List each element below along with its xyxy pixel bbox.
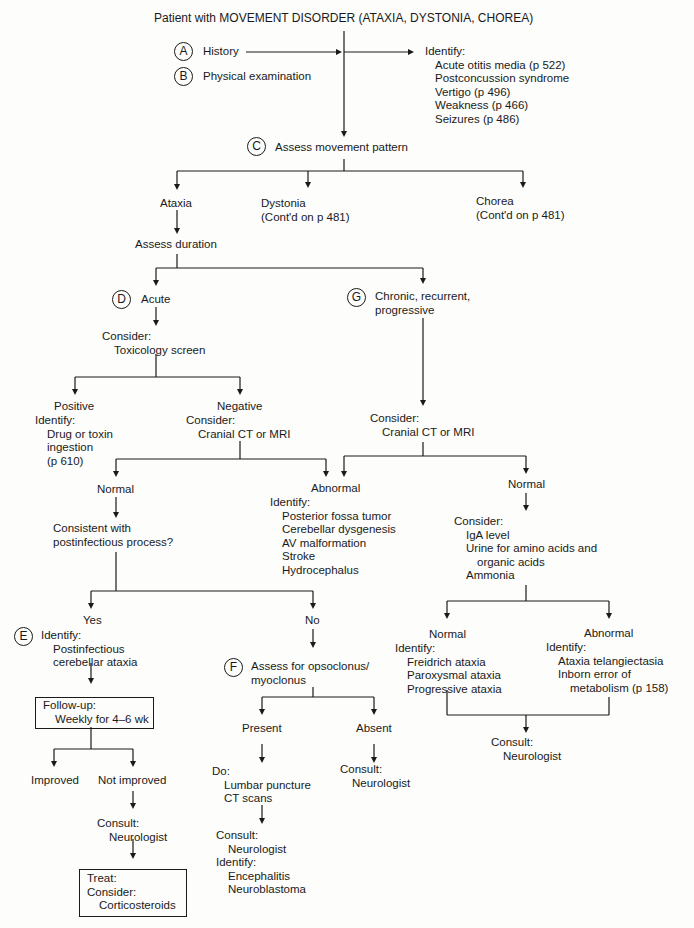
toxicology-screen: Toxicology screen: [102, 344, 205, 358]
identify-item: cerebellar ataxia: [41, 656, 137, 670]
chorea-label: Chorea: [476, 195, 565, 209]
identify-heading: Identify:: [35, 414, 113, 428]
metabolic-tests-group: Consider: IgA level Urine for amino acid…: [454, 515, 597, 583]
consult-item: Neurologist: [491, 750, 561, 764]
abnormal-metabolic-label: Abnormal: [584, 627, 633, 641]
treat-item: Corticosteroids: [87, 899, 176, 913]
identify-item: Inborn error of: [546, 668, 668, 682]
negative-label: Negative: [217, 400, 262, 414]
identify-item: Seizures (p 486): [425, 113, 569, 127]
present-consult-group: Consult: Neurologist Identify: Encephali…: [216, 829, 306, 897]
identify-item: Stroke: [270, 550, 396, 564]
flowchart-title: Patient with MOVEMENT DISORDER (ATAXIA, …: [154, 12, 533, 26]
chorea-group: Chorea (Cont'd on p 481): [476, 195, 565, 222]
consult-item: Neurologist: [340, 777, 410, 791]
normal-metabolic-identify: Identify: Freidrich ataxia Paroxysmal at…: [395, 642, 502, 696]
question-line: postinfectious process?: [53, 536, 173, 550]
consult-heading: Consult:: [340, 763, 410, 777]
history-label: History: [203, 45, 239, 59]
absent-label: Absent: [356, 722, 392, 736]
step-f-marker: F: [224, 658, 243, 677]
identify-item: Cerebellar dysgenesis: [270, 523, 396, 537]
do-heading: Do:: [212, 765, 311, 779]
identify-item: Ataxia telangiectasia: [546, 655, 668, 669]
consult-heading: Consult:: [97, 817, 167, 831]
consult-item: Neurologist: [216, 843, 306, 857]
identify-item: Vertigo (p 496): [425, 86, 569, 100]
identify-item: Neuroblastoma: [216, 883, 306, 897]
negative-consider-group: Consider: Cranial CT or MRI: [186, 414, 290, 441]
followup-heading: Follow-up:: [43, 699, 149, 713]
flowchart-canvas: Patient with MOVEMENT DISORDER (ATAXIA, …: [0, 0, 694, 928]
question-line: Consistent with: [53, 522, 173, 536]
not-improved-label: Not improved: [98, 774, 166, 788]
identify-item: Encephalitis: [216, 870, 306, 884]
consult-item: Neurologist: [97, 831, 167, 845]
identify-item: Postinfectious: [41, 643, 137, 657]
step-g-marker: G: [347, 288, 366, 307]
consider-heading: Consider:: [186, 414, 290, 428]
treat-group: Treat: Consider: Corticosteroids: [87, 872, 176, 913]
abnormal-identify-group: Identify: Posterior fossa tumor Cerebell…: [270, 496, 396, 577]
identify-heading: Identify:: [395, 642, 502, 656]
normal-chronic-ct-label: Normal: [508, 478, 545, 492]
present-label: Present: [242, 722, 282, 736]
opsoclonus-label: Assess for opsoclonus/: [251, 660, 369, 674]
identify-item: Weakness (p 466): [425, 99, 569, 113]
normal-ct-label: Normal: [97, 483, 134, 497]
absent-consult-group: Consult: Neurologist: [340, 763, 410, 790]
identify-heading: Identify:: [270, 496, 396, 510]
identify-item: Hydrocephalus: [270, 564, 396, 578]
step-d-marker: D: [112, 290, 131, 309]
identify-item: Postconcussion syndrome: [425, 72, 569, 86]
test-item: IgA level: [454, 529, 597, 543]
assess-movement-label: Assess movement pattern: [275, 141, 408, 155]
no-label: No: [305, 614, 320, 628]
cranial-ct-mri: Cranial CT or MRI: [370, 426, 474, 440]
identify-heading: Identify:: [41, 629, 137, 643]
tox-consider-group: Consider: Toxicology screen: [102, 330, 205, 357]
chorea-continued: (Cont'd on p 481): [476, 209, 565, 223]
dystonia-continued: (Cont'd on p 481): [261, 211, 350, 225]
step-c-marker: C: [247, 137, 266, 156]
consult-heading: Consult:: [491, 736, 561, 750]
chronic-consider-group: Consider: Cranial CT or MRI: [370, 412, 474, 439]
step-a-marker: A: [174, 42, 193, 61]
positive-label: Positive: [54, 400, 94, 414]
abnormal-ct-label: Abnormal: [311, 482, 360, 496]
test-item: organic acids: [454, 556, 597, 570]
identify-item: ingestion: [35, 441, 113, 455]
consult-heading: Consult:: [216, 829, 306, 843]
consider-heading: Consider:: [102, 330, 205, 344]
do-group: Do: Lumbar puncture CT scans: [212, 765, 311, 806]
identify-item: AV malformation: [270, 537, 396, 551]
identify-item: Posterior fossa tumor: [270, 510, 396, 524]
acute-label: Acute: [141, 293, 170, 307]
identify-item: Acute otitis media (p 522): [425, 59, 569, 73]
do-item: Lumbar puncture: [212, 779, 311, 793]
identify-item: Progressive ataxia: [395, 683, 502, 697]
identify-heading: Identify:: [546, 641, 668, 655]
consider-heading: Consider:: [370, 412, 474, 426]
identify-item: (p 610): [35, 455, 113, 469]
improved-label: Improved: [31, 774, 79, 788]
followup-item: Weekly for 4–6 wk: [43, 713, 149, 727]
cranial-ct-mri: Cranial CT or MRI: [186, 428, 290, 442]
yes-label: Yes: [83, 614, 102, 628]
identify-heading: Identify:: [425, 45, 465, 57]
test-item: Ammonia: [454, 569, 597, 583]
identify-item: metabolism (p 158): [546, 682, 668, 696]
test-item: Urine for amino acids and: [454, 542, 597, 556]
abnormal-metabolic-identify: Identify: Ataxia telangiectasia Inborn e…: [546, 641, 668, 695]
followup-group: Follow-up: Weekly for 4–6 wk: [43, 699, 149, 726]
positive-identify-group: Identify: Drug or toxin ingestion (p 610…: [35, 414, 113, 468]
identify-heading: Identify:: [216, 856, 306, 870]
identify-top-group: Identify: Acute otitis media (p 522) Pos…: [425, 45, 569, 126]
assess-duration-label: Assess duration: [135, 238, 217, 252]
opsoclonus-label: myoclonus: [251, 674, 369, 688]
dystonia-group: Dystonia (Cont'd on p 481): [261, 197, 350, 224]
identify-item: Drug or toxin: [35, 428, 113, 442]
chronic-consult-group: Consult: Neurologist: [491, 736, 561, 763]
step-e-marker: E: [14, 627, 33, 646]
identify-item: Freidrich ataxia: [395, 656, 502, 670]
